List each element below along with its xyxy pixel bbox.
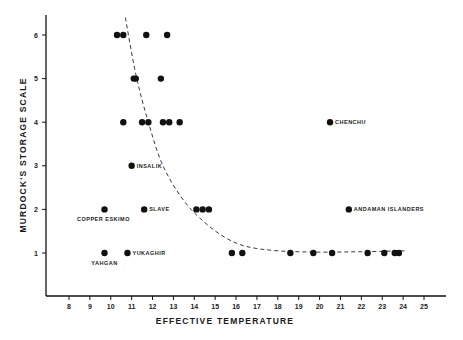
data-point (206, 206, 212, 212)
y-tick-label: 4 (34, 119, 38, 126)
data-point (396, 250, 402, 256)
data-point (364, 250, 370, 256)
y-axis-title: MURDOCK'S STORAGE SCALE (18, 77, 28, 232)
x-tick-label: 23 (378, 303, 386, 310)
data-point (310, 250, 316, 256)
x-tick-label: 22 (357, 303, 365, 310)
data-point (145, 119, 151, 125)
data-point (199, 206, 205, 212)
x-tick-label: 14 (190, 303, 198, 310)
y-tick-label: 3 (34, 162, 38, 169)
x-tick-label: 10 (107, 303, 115, 310)
x-tick-label: 17 (253, 303, 261, 310)
x-tick-label: 8 (67, 303, 71, 310)
y-tick-label: 1 (34, 250, 38, 257)
point-label: INSALIK (137, 163, 163, 169)
data-point (239, 250, 245, 256)
data-point (287, 250, 293, 256)
data-point (381, 250, 387, 256)
scatter-chart: 8910111213141516171819202122232425 12345… (0, 0, 463, 340)
x-tick-label: 13 (170, 303, 178, 310)
y-tick-label: 6 (34, 32, 38, 39)
x-tick-label: 25 (420, 303, 428, 310)
x-tick-label: 15 (211, 303, 219, 310)
data-point (160, 119, 166, 125)
data-points (101, 32, 402, 256)
data-point (164, 32, 170, 38)
x-tick-label: 21 (337, 303, 345, 310)
data-point (120, 32, 126, 38)
point-label: YUKAGHIR (132, 250, 165, 256)
data-point (120, 119, 126, 125)
x-ticks: 8910111213141516171819202122232425 (67, 296, 428, 310)
data-point (158, 75, 164, 81)
data-point (114, 32, 120, 38)
data-point (346, 206, 352, 212)
x-tick-label: 16 (232, 303, 240, 310)
y-ticks: 123456 (34, 32, 46, 257)
trend-curve (125, 18, 407, 253)
data-point (176, 119, 182, 125)
data-point (124, 250, 130, 256)
y-tick-label: 2 (34, 206, 38, 213)
x-tick-label: 9 (88, 303, 92, 310)
x-tick-label: 12 (149, 303, 157, 310)
data-point (193, 206, 199, 212)
data-point (143, 32, 149, 38)
data-point (128, 163, 134, 169)
x-axis-title: EFFECTIVE TEMPERATURE (156, 316, 294, 326)
point-label: YAHGAN (91, 260, 117, 266)
x-tick-label: 24 (399, 303, 407, 310)
point-label: CHENCHU (335, 119, 366, 125)
point-label: COPPER ESKIMO (77, 216, 130, 222)
y-tick-label: 5 (34, 75, 38, 82)
x-tick-label: 18 (274, 303, 282, 310)
data-point (101, 250, 107, 256)
data-point (329, 250, 335, 256)
data-point (327, 119, 333, 125)
data-point (166, 119, 172, 125)
x-tick-label: 19 (295, 303, 303, 310)
data-point (133, 75, 139, 81)
data-point (229, 250, 235, 256)
x-tick-label: 11 (128, 303, 136, 310)
data-point (139, 119, 145, 125)
point-label: ANDAMAN ISLANDERS (354, 206, 424, 212)
x-tick-label: 20 (316, 303, 324, 310)
data-point (101, 206, 107, 212)
data-point (141, 206, 147, 212)
point-label: SLAVE (149, 206, 169, 212)
point-labels: CHENCHUINSALIKCOPPER ESKIMOSLAVEANDAMAN … (77, 119, 424, 266)
